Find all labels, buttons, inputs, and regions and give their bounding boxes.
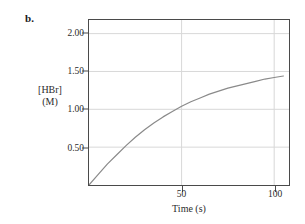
figure-root: b. [HBr] (M) 0.501.001.502.00 50100 Time…: [0, 0, 305, 224]
x-axis-tick-labels: 50100: [88, 189, 290, 203]
y-tick-label-3: 2.00: [50, 28, 84, 38]
series-line-0: [89, 76, 283, 185]
y-axis-tick-labels: 0.501.001.502.00: [48, 19, 84, 186]
y-tick-label-0: 0.50: [50, 143, 84, 153]
plot-area: [88, 19, 290, 186]
x-axis-title: Time (s): [88, 203, 290, 214]
panel-label: b.: [25, 12, 34, 24]
y-tick-label-1: 1.00: [50, 104, 84, 114]
y-tick-label-2: 1.50: [50, 66, 84, 76]
x-tick-label-1: 100: [255, 189, 295, 199]
x-tick-label-0: 50: [162, 189, 202, 199]
data-curve-layer: [89, 20, 289, 185]
